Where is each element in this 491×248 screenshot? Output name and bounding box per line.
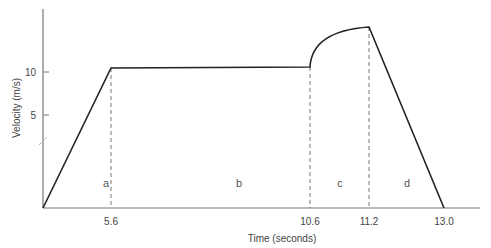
y-axis-label: Velocity (m/s): [11, 78, 22, 138]
x-tick-label-10-6: 10.6: [300, 216, 320, 227]
segment-label-a: a: [103, 177, 110, 189]
x-tick-label-11-2: 11.2: [360, 216, 379, 227]
segment-label-c: c: [337, 177, 343, 189]
x-axis-label: Time (seconds): [248, 233, 317, 244]
segment-label-b: b: [236, 177, 242, 189]
velocity-time-chart: 10 5 Velocity (m/s) 5.6 10.6 11.2 13.0 T…: [0, 0, 491, 248]
x-tick-label-5-6: 5.6: [104, 216, 118, 227]
y-tick-label-10: 10: [25, 67, 37, 78]
segment-label-d: d: [404, 177, 410, 189]
y-tick-label-5: 5: [30, 110, 36, 121]
x-tick-label-13-0: 13.0: [434, 216, 454, 227]
